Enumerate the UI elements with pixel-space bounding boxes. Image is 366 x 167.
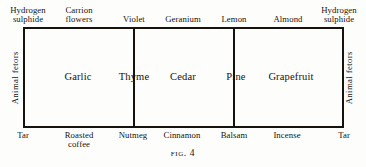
- top-label-line1: Lemon: [221, 14, 246, 24]
- top-label-line1: Geranium: [165, 14, 201, 24]
- bottom-label-line1: Balsam: [221, 130, 248, 140]
- side-label-animal-fetors-right: Animal fetors: [345, 46, 354, 110]
- bottom-label-line1: Incense: [273, 130, 300, 140]
- bottom-label-balsam: Balsam: [204, 131, 264, 140]
- figure-container: Hydrogen sulphide Carrion flowers Violet…: [0, 0, 366, 167]
- cell-label-garlic: Garlic: [48, 71, 108, 83]
- figure-caption-prefix: Fig.: [171, 148, 187, 158]
- bottom-label-line1: Tar: [338, 130, 350, 140]
- top-label-line2: flowers: [49, 15, 109, 24]
- bottom-label-line1: Nutmeg: [119, 130, 148, 140]
- top-label-line2: sulphide: [309, 15, 366, 24]
- figure-caption: Fig.4: [0, 148, 366, 158]
- bottom-label-tar-left: Tar: [0, 131, 47, 140]
- top-label-line1: Violet: [123, 14, 145, 24]
- top-label-hydrogen-sulphide-right: Hydrogen sulphide: [309, 6, 366, 25]
- top-label-lemon: Lemon: [204, 15, 264, 24]
- bottom-label-cinnamon: Cinnamon: [152, 131, 212, 140]
- bottom-label-line1: Cinnamon: [164, 130, 201, 140]
- cell-label-grapefruit: Grapefruit: [255, 71, 327, 83]
- figure-caption-number: 4: [190, 148, 195, 158]
- bottom-label-incense: Incense: [257, 131, 317, 140]
- cell-label-cedar: Cedar: [153, 71, 213, 83]
- top-label-carrion-flowers: Carrion flowers: [49, 6, 109, 25]
- bottom-label-line1: Tar: [17, 130, 29, 140]
- bottom-label-tar-right: Tar: [320, 131, 366, 140]
- side-label-animal-fetors-left: Animal fetors: [11, 46, 20, 110]
- top-label-line1: Almond: [273, 14, 302, 24]
- bottom-label-roasted-coffee: Roasted coffee: [49, 131, 109, 150]
